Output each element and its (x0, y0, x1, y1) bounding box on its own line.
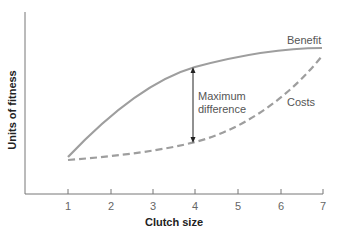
annotation-maximum: Maximum (198, 90, 246, 102)
x-tick-label: 1 (65, 200, 71, 212)
x-tick-label: 6 (278, 200, 284, 212)
chart: 1 2 3 4 5 6 7 Clutch size Units of fitne… (0, 0, 339, 232)
x-tick-label: 3 (150, 200, 156, 212)
benefit-label: Benefit (287, 34, 321, 46)
costs-label: Costs (287, 96, 316, 108)
x-axis-label: Clutch size (145, 216, 203, 228)
annotation-difference: difference (198, 103, 246, 115)
x-ticks (68, 189, 323, 194)
x-tick-label: 7 (320, 200, 326, 212)
costs-curve (68, 56, 322, 160)
x-tick-label: 4 (192, 200, 198, 212)
x-tick-label: 5 (235, 200, 241, 212)
benefit-curve (68, 48, 322, 157)
y-axis-label: Units of fitness (6, 70, 18, 149)
x-tick-label: 2 (108, 200, 114, 212)
